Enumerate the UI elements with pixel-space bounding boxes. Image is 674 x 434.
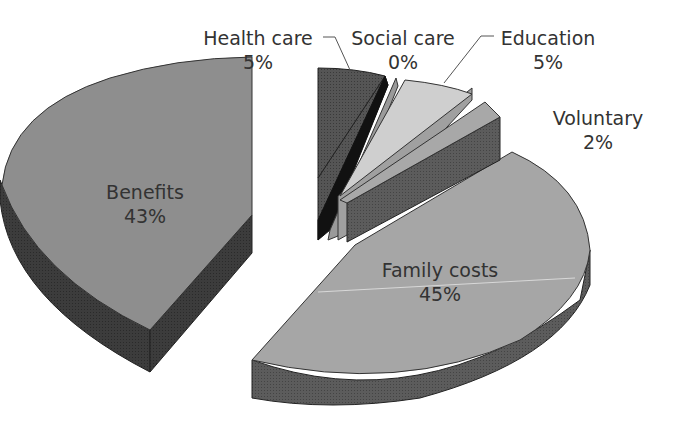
label-education: Education 5% xyxy=(496,26,600,74)
label-family-costs-value: 45% xyxy=(370,282,510,306)
label-education-name: Education xyxy=(496,26,600,50)
label-social-care: Social care 0% xyxy=(344,26,462,74)
label-education-value: 5% xyxy=(496,50,600,74)
label-voluntary: Voluntary 2% xyxy=(546,106,650,154)
label-health-care-name: Health care xyxy=(196,26,320,50)
label-health-care: Health care 5% xyxy=(196,26,320,74)
label-health-care-value: 5% xyxy=(196,50,320,74)
label-family-costs-name: Family costs xyxy=(370,258,510,282)
label-benefits: Benefits 43% xyxy=(95,180,195,228)
label-benefits-value: 43% xyxy=(95,204,195,228)
label-social-care-name: Social care xyxy=(344,26,462,50)
label-social-care-value: 0% xyxy=(344,50,462,74)
label-family-costs: Family costs 45% xyxy=(370,258,510,306)
label-voluntary-name: Voluntary xyxy=(546,106,650,130)
label-benefits-name: Benefits xyxy=(95,180,195,204)
label-voluntary-value: 2% xyxy=(546,130,650,154)
